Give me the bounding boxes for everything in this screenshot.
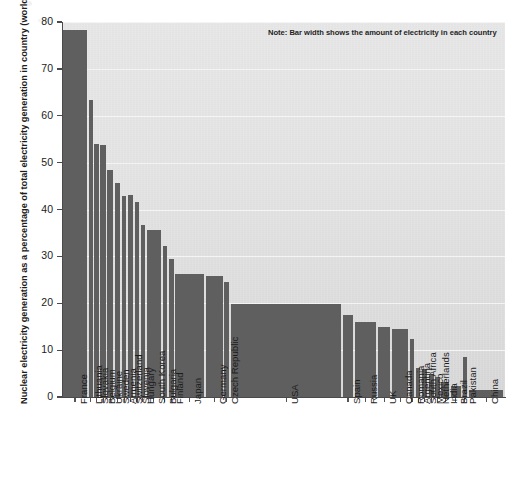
y-tick-label-50: 50 bbox=[27, 157, 53, 167]
y-tick-label-60: 60 bbox=[27, 110, 53, 120]
x-tick-mark-germany bbox=[214, 398, 215, 402]
bar-france bbox=[63, 30, 87, 397]
gridline-80 bbox=[63, 22, 505, 23]
bar-slovakia bbox=[94, 144, 98, 397]
y-tick-mark-0 bbox=[57, 396, 62, 397]
chart-figure: Nuclear electricity generation as a perc… bbox=[0, 0, 523, 504]
bar-lithuania bbox=[89, 100, 93, 397]
x-tick-mark-france bbox=[74, 398, 75, 402]
y-tick-label-70: 70 bbox=[27, 63, 53, 73]
x-tick-mark-japan bbox=[189, 398, 190, 402]
x-tick-mark-canada bbox=[400, 398, 401, 402]
y-tick-mark-70 bbox=[57, 68, 62, 69]
y-tick-mark-30 bbox=[57, 256, 62, 257]
x-label-germany: Germany bbox=[218, 365, 228, 404]
y-tick-label-10: 10 bbox=[27, 344, 53, 354]
x-tick-mark-spain bbox=[347, 398, 348, 402]
bar-usa bbox=[231, 304, 341, 397]
y-tick-label-40: 40 bbox=[27, 204, 53, 214]
y-tick-label-0: 0 bbox=[27, 391, 53, 401]
gridline-70 bbox=[63, 69, 505, 70]
x-tick-mark-usa bbox=[286, 398, 287, 402]
x-label-pakistan: Pakistan bbox=[468, 367, 478, 404]
x-label-hungary: Hungary bbox=[146, 368, 156, 404]
x-label-uk: UK bbox=[388, 391, 398, 404]
y-tick-label-80: 80 bbox=[27, 16, 53, 26]
x-label-finland: Finland bbox=[175, 373, 185, 404]
x-tick-mark-russia bbox=[365, 398, 366, 402]
plot-area bbox=[63, 22, 505, 397]
x-label-spain: Spain bbox=[352, 379, 362, 404]
bar-sweden bbox=[115, 183, 121, 397]
bar-armenia bbox=[122, 196, 126, 397]
chart-note: Note: Bar width shows the amount of elec… bbox=[268, 28, 497, 37]
gridline-50 bbox=[63, 163, 505, 164]
y-tick-mark-60 bbox=[57, 115, 62, 116]
x-label-france: France bbox=[79, 374, 89, 404]
y-axis-line bbox=[62, 22, 63, 398]
y-tick-label-30: 30 bbox=[27, 250, 53, 260]
x-label-south-korea: South Korea bbox=[157, 351, 167, 404]
gridline-60 bbox=[63, 116, 505, 117]
y-tick-mark-40 bbox=[57, 209, 62, 210]
bar-belgium bbox=[100, 145, 105, 397]
y-tick-mark-80 bbox=[57, 21, 62, 22]
bar-ukraine bbox=[107, 170, 113, 397]
x-label-usa: USA bbox=[290, 384, 300, 404]
x-label-canada: Canada bbox=[404, 370, 414, 404]
x-tick-mark-uk bbox=[384, 398, 385, 402]
x-label-russia: Russia bbox=[369, 375, 379, 404]
y-tick-mark-20 bbox=[57, 303, 62, 304]
y-tick-label-20: 20 bbox=[27, 297, 53, 307]
x-tick-mark-lithuania bbox=[90, 398, 91, 402]
x-label-china: China bbox=[490, 379, 500, 404]
x-label-india: India bbox=[449, 383, 459, 404]
y-tick-mark-10 bbox=[57, 350, 62, 351]
x-label-czech-republic: Czech Republic bbox=[230, 337, 240, 404]
x-label-japan: Japan bbox=[193, 378, 203, 404]
y-tick-mark-50 bbox=[57, 162, 62, 163]
bar-uk bbox=[378, 327, 390, 397]
x-tick-mark-china bbox=[486, 398, 487, 402]
